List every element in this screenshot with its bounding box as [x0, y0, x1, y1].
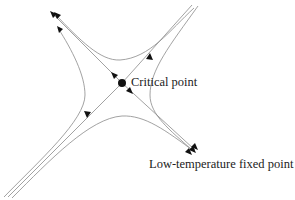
arrow-icon — [57, 26, 63, 33]
low-temperature-fixed-point-label: Low-temperature fixed point — [149, 158, 293, 171]
arrow-icon — [146, 53, 153, 60]
flow-curve-top — [55, 8, 194, 60]
critical-point-label: Critical point — [131, 76, 197, 89]
flow-curve-left — [4, 28, 85, 197]
critical-point-dot — [118, 79, 126, 87]
